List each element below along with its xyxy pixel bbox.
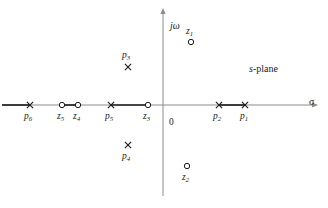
marker-z3-zero-circle — [145, 102, 150, 107]
marker-z2-zero-circle — [184, 163, 189, 168]
marker-label-p3: p3 — [122, 51, 130, 61]
marker-label-z3-subscript: 3 — [147, 115, 150, 122]
marker-label-p4: p4 — [122, 152, 130, 162]
marker-label-p4-subscript: 4 — [127, 155, 130, 162]
marker-z4-zero-circle — [75, 102, 80, 107]
origin-label: 0 — [169, 118, 174, 128]
marker-label-z5-subscript: 5 — [61, 115, 64, 122]
marker-label-z1: z1 — [186, 27, 193, 37]
marker-label-p6: p6 — [24, 112, 32, 122]
s-plane-figure: σ jω 0 s-plane p1p2p3p4p5p6z1z2z3z4z5 — [0, 0, 328, 208]
marker-p4-pole-x — [125, 142, 131, 148]
marker-label-z3: z3 — [143, 112, 150, 122]
j-omega-axis-label: jω — [170, 21, 180, 31]
marker-label-p3-subscript: 3 — [127, 54, 130, 61]
marker-label-z2-subscript: 2 — [186, 176, 189, 183]
marker-label-p5: p5 — [105, 112, 113, 122]
marker-label-p1-subscript: 1 — [245, 115, 248, 122]
marker-label-p2-subscript: 2 — [218, 115, 221, 122]
axes-group — [2, 8, 318, 196]
marker-label-p1: p1 — [240, 112, 248, 122]
marker-label-z2: z2 — [182, 173, 189, 183]
marker-z1-zero-circle — [188, 39, 193, 44]
marker-label-z4: z4 — [73, 112, 80, 122]
marker-label-p5-subscript: 5 — [110, 115, 113, 122]
pole-zero-canvas — [0, 0, 328, 208]
s-plane-annotation: s-plane — [249, 64, 278, 74]
sigma-axis-label: σ — [309, 97, 314, 107]
marker-label-z1-subscript: 1 — [190, 30, 193, 37]
marker-p3-pole-x — [125, 64, 131, 70]
markers-group — [27, 39, 248, 168]
marker-z5-zero-circle — [59, 102, 64, 107]
marker-label-z4-subscript: 4 — [77, 115, 80, 122]
marker-label-p6-subscript: 6 — [29, 115, 32, 122]
marker-label-p2: p2 — [213, 112, 221, 122]
imag-axis-arrowhead — [160, 8, 165, 14]
marker-label-z5: z5 — [57, 112, 64, 122]
